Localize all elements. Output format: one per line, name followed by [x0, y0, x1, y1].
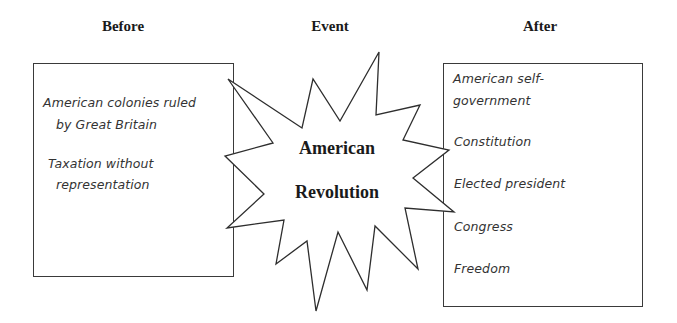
event-starburst-shape: [0, 0, 677, 323]
event-title-line-1: American: [257, 138, 417, 159]
event-title-line-2: Revolution: [257, 182, 417, 203]
